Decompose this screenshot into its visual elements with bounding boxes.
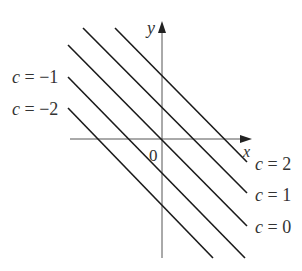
c-var: c [255,185,263,205]
line-c-1 [83,28,247,193]
label-c-minus-2-rest: = −2 [20,99,58,119]
c-var: c [255,217,263,237]
y-axis-arrow-icon [158,21,166,33]
label-c-minus-1: c = −1 [12,67,58,87]
label-c-0: c = 0 [255,217,291,237]
y-axis-label: y [145,18,155,38]
label-c-minus-2: c = −2 [12,99,58,119]
origin-label: 0 [149,146,158,165]
label-c-2-rest: = 2 [263,154,291,174]
line-c-minus-2 [68,108,213,258]
level-lines [68,28,247,258]
label-c-0-rest: = 0 [263,217,291,237]
line-c-minus-1 [68,77,245,258]
x-axis-arrow-icon [240,135,252,143]
label-c-minus-1-rest: = −1 [20,67,58,87]
label-c-1-rest: = 1 [263,185,291,205]
level-curves-diagram: y x 0 c = −1 c = −2 c = 2 c = 1 c = 0 [0,0,302,271]
c-var: c [12,67,20,87]
x-axis-label: x [242,143,250,160]
label-c-1: c = 1 [255,185,291,205]
label-c-2: c = 2 [255,154,291,174]
c-var: c [255,154,263,174]
c-var: c [12,99,20,119]
line-c-2 [115,28,247,162]
